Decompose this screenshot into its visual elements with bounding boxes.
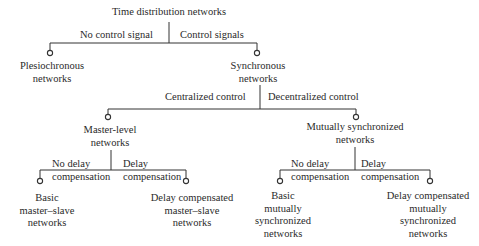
node-terminal-icon — [254, 50, 259, 55]
node-terminal-icon — [277, 178, 282, 183]
node-plesiochronous-networks: Plesiochronous networks — [2, 60, 102, 85]
root-node-label: Time distribution networks — [109, 6, 229, 19]
edge-label-control-signals: Control signals — [180, 29, 244, 42]
edge-label-no-delay-compensation: No delay compensation — [291, 157, 349, 183]
node-mutually-synchronized-networks: Mutually synchronized networks — [295, 121, 415, 146]
node-synchronous-networks: Synchronous networks — [208, 60, 308, 85]
node-terminal-icon — [105, 114, 110, 119]
edge-label-centralized-control: Centralized control — [165, 91, 246, 104]
edge-label-no-control-signal: No control signal — [80, 29, 153, 42]
node-terminal-icon — [427, 178, 432, 183]
node-master-level-networks: Master-level networks — [60, 124, 160, 149]
node-terminal-icon — [37, 178, 42, 183]
node-delay-compensated-mutually-synchronized-networks: Delay compensated mutually synchronized … — [378, 190, 478, 240]
edge-label-no-delay-compensation: No delay compensation — [52, 157, 110, 183]
edge-label-delay-compensation: Delay compensation — [361, 157, 419, 183]
node-delay-compensated-master-slave-networks: Delay compensated master–slave networks — [142, 192, 242, 230]
edge-label-delay-compensation: Delay compensation — [123, 157, 181, 183]
node-terminal-icon — [353, 114, 358, 119]
edge-label-decentralized-control: Decentralized control — [268, 91, 359, 104]
node-terminal-icon — [183, 178, 188, 183]
node-basic-mutually-synchronized-networks: Basic mutually synchronized networks — [238, 190, 328, 240]
node-terminal-icon — [47, 50, 52, 55]
node-basic-master-slave-networks: Basic master–slave networks — [2, 192, 92, 230]
